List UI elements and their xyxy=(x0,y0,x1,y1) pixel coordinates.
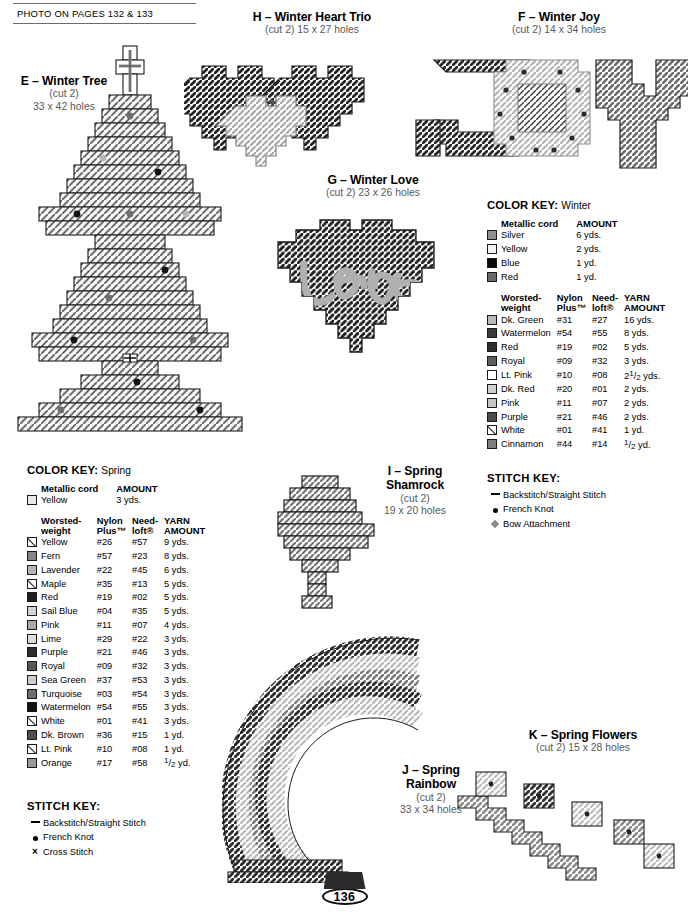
yarn-amount: 3 yds. xyxy=(164,674,205,688)
chart-winter-heart-trio xyxy=(184,44,384,174)
spring-metallic-amount-header: AMOUNT xyxy=(116,483,157,495)
yarn-amount: 1 yd. xyxy=(576,257,617,271)
spring-metallic-table: Metallic cord AMOUNT Yellow3 yds. xyxy=(27,483,157,508)
color-swatch xyxy=(27,647,37,657)
color-swatch xyxy=(487,398,497,408)
color-swatch xyxy=(487,230,497,240)
nylon-plus-code: #22 xyxy=(97,564,132,578)
yarn-amount: 3 yds. xyxy=(164,646,205,660)
stitch-key-label: French Knot xyxy=(43,832,94,842)
yarn-amount: 8 yds. xyxy=(164,550,205,564)
yarn-amount: 5 yds. xyxy=(164,605,205,619)
nylon-plus-code: #10 xyxy=(557,369,592,383)
winter-color-key: COLOR KEY: Winter Metallic cord AMOUNT S… xyxy=(487,200,685,452)
cross-stitch-icon: × xyxy=(32,846,38,857)
winter-metallic-amount-header: AMOUNT xyxy=(576,218,617,230)
color-name: Royal xyxy=(41,660,97,674)
pattern-title-f: F – Winter Joy (cut 2) 14 x 34 holes xyxy=(434,10,684,37)
nylon-plus-code: #54 xyxy=(97,701,132,715)
needloft-code: #02 xyxy=(592,341,624,355)
winter-metallic-header-row: Metallic cord AMOUNT xyxy=(487,218,617,230)
color-key-row: Dk. Brown#36#151 yd. xyxy=(27,729,205,743)
nylon-plus-code: #29 xyxy=(97,633,132,647)
needloft-code: #41 xyxy=(132,715,164,729)
stitch-key-row: French Knot xyxy=(487,504,685,515)
yarn-amount: 1 yd. xyxy=(164,743,205,757)
needloft-code: #01 xyxy=(592,383,624,397)
color-swatch xyxy=(27,565,37,575)
color-name: Watermelon xyxy=(501,327,557,341)
color-key-row: Blue1 yd. xyxy=(487,257,617,271)
backstitch-icon xyxy=(31,821,40,823)
color-swatch xyxy=(27,606,37,616)
color-name: Red xyxy=(501,271,564,285)
yarn-amount: 8 yds. xyxy=(624,327,665,341)
color-name: Orange xyxy=(41,756,97,770)
color-name: Purple xyxy=(501,411,557,425)
color-swatch xyxy=(27,551,37,561)
needloft-code: #54 xyxy=(132,688,164,702)
yarn-amount: 2 yds. xyxy=(624,383,665,397)
color-key-row: Purple#21#463 yds. xyxy=(27,646,205,660)
yarn-amount: 3 yds. xyxy=(624,355,665,369)
winter-stitch-key: STITCH KEY: Backstitch/Straight StitchFr… xyxy=(487,472,685,533)
needloft-code: #07 xyxy=(592,397,624,411)
spring-stitch-rows: Backstitch/Straight StitchFrench Knot×Cr… xyxy=(27,817,237,857)
color-swatch xyxy=(27,730,37,740)
color-name: Turquoise xyxy=(41,688,97,702)
yarn-amount: 1 yd. xyxy=(624,424,665,438)
color-key-row: Lt. Pink#10#0821/2 yds. xyxy=(487,369,665,383)
color-swatch xyxy=(27,702,37,712)
needloft-code: #08 xyxy=(592,369,624,383)
color-name: White xyxy=(501,424,557,438)
spring-color-key-heading: COLOR KEY: Spring xyxy=(27,465,237,477)
needloft-code: #14 xyxy=(592,438,624,452)
color-name: Watermelon xyxy=(41,701,97,715)
nylon-plus-code: #19 xyxy=(557,341,592,355)
color-key-row: Red#19#025 yds. xyxy=(487,341,665,355)
nylon-plus-code: #37 xyxy=(97,674,132,688)
tree-topper xyxy=(116,46,144,95)
stitch-key-row: Backstitch/Straight Stitch xyxy=(27,817,237,828)
color-swatch xyxy=(487,370,497,380)
color-key-row: Sail Blue#04#355 yds. xyxy=(27,605,205,619)
chart-flowers-svg xyxy=(452,760,686,890)
color-swatch xyxy=(487,328,497,338)
nylon-plus-code: #09 xyxy=(97,660,132,674)
stitch-key-row: Backstitch/Straight Stitch xyxy=(487,489,685,500)
color-name: Lime xyxy=(41,633,97,647)
color-name: Yellow xyxy=(41,494,104,508)
color-swatch xyxy=(487,272,497,282)
winter-metallic-label: Metallic cord xyxy=(501,218,564,230)
nylon-plus-code: #01 xyxy=(557,424,592,438)
page-number-tab xyxy=(324,872,366,889)
yarn-amount: 2 yds. xyxy=(576,243,617,257)
nylon-plus-code: #01 xyxy=(97,715,132,729)
color-key-row: Orange#17#581/2 yd. xyxy=(27,756,205,770)
nylon-plus-code: #11 xyxy=(97,619,132,633)
chart-rainbow-svg xyxy=(222,608,472,883)
stitch-key-label: Cross Stitch xyxy=(43,847,93,857)
color-key-row: Fern#57#238 yds. xyxy=(27,550,205,564)
spring-stitch-key-heading: STITCH KEY: xyxy=(27,800,237,812)
needloft-code: #32 xyxy=(132,660,164,674)
color-key-row: Yellow#26#579 yds. xyxy=(27,536,205,550)
yarn-amount: 5 yds. xyxy=(164,578,205,592)
winter-color-key-season: Winter xyxy=(561,200,590,211)
yarn-amount: 21/2 yds. xyxy=(624,369,665,383)
spring-col3-l2: loft® xyxy=(132,526,158,536)
yarn-amount: 3 yds. xyxy=(164,701,205,715)
nylon-plus-code: #17 xyxy=(97,756,132,770)
yarn-amount: 3 yds. xyxy=(116,494,157,508)
color-swatch xyxy=(487,384,497,394)
color-name: Cinnamon xyxy=(501,438,557,452)
color-name: Sea Green xyxy=(41,674,97,688)
color-name: Sail Blue xyxy=(41,605,97,619)
color-swatch xyxy=(487,356,497,366)
yarn-amount: 2 yds. xyxy=(624,411,665,425)
needloft-code: #57 xyxy=(132,536,164,550)
color-key-row: White#01#413 yds. xyxy=(27,715,205,729)
backstitch-icon xyxy=(491,493,500,495)
color-name: Yellow xyxy=(41,536,97,550)
page-number-badge: 136 xyxy=(322,872,368,905)
